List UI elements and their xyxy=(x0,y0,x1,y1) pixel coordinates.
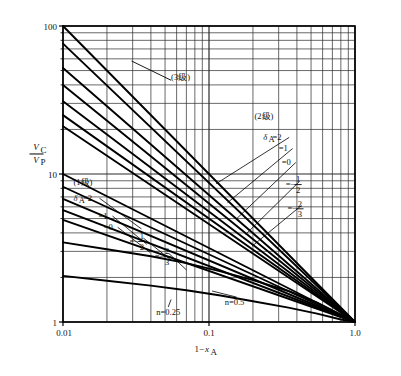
frac-denominator: 3 xyxy=(298,209,302,219)
frac-denominator: 2 xyxy=(296,185,300,195)
x-tick-label-1.0: 1.0 xyxy=(349,328,361,338)
group-label-(1级): (1级) xyxy=(73,177,92,187)
delta-value: =2 xyxy=(83,193,92,203)
delta-eq-0: =0 xyxy=(282,157,291,167)
frac-lead: =− xyxy=(129,236,139,246)
frac-denominator: 2 xyxy=(140,242,144,252)
y-tick-label-100: 100 xyxy=(44,22,58,32)
frac-denominator: 3 xyxy=(165,257,169,267)
frac-numerator: 2 xyxy=(165,246,169,256)
curve-label-n=0.5: n=0.5 xyxy=(225,297,245,307)
y-axis-title-numerator-subscript: C xyxy=(41,145,47,155)
delta-eq-0: =0 xyxy=(104,222,113,232)
y-tick-label-10: 10 xyxy=(48,170,58,180)
x-axis-title-prefix: 1− xyxy=(194,344,204,354)
chart-page: 1101000.010.11.01−xAVCVP (3级)(2级)δA=2=1=… xyxy=(0,0,401,376)
group-label-(2级): (2级) xyxy=(255,111,274,121)
y-axis-title-denominator-subscript: P xyxy=(41,157,46,167)
log-log-chart: 1101000.010.11.01−xAVCVP (3级)(2级)δA=2=1=… xyxy=(0,0,401,376)
x-axis-title-variable: x xyxy=(204,344,209,354)
x-tick-label-0.1: 0.1 xyxy=(203,328,214,338)
curve-label-n=0.25: n=0.25 xyxy=(156,307,180,317)
delta-value: =2 xyxy=(273,132,282,142)
frac-lead: =− xyxy=(155,251,165,261)
x-tick-label-0.01: 0.01 xyxy=(56,328,72,338)
delta-eq-1: =1 xyxy=(279,143,288,153)
frac-lead: =− xyxy=(288,203,298,213)
group-label-(3级): (3级) xyxy=(171,72,190,82)
y-tick-label-1: 1 xyxy=(53,318,58,328)
delta-eq-1: =1 xyxy=(98,211,107,221)
frac-numerator: 1 xyxy=(140,231,144,241)
x-axis-title-subscript: A xyxy=(211,347,218,357)
